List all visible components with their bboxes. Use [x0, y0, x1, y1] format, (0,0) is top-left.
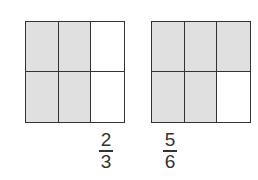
grid-cell — [26, 22, 59, 72]
fraction-label-left: 2 3 — [98, 131, 114, 171]
fraction-grid-left — [25, 21, 125, 123]
grid-cell — [185, 22, 218, 72]
fraction-numerator: 2 — [101, 131, 112, 149]
grid-cell — [152, 72, 185, 122]
grid-cell — [26, 72, 59, 122]
grid-cell — [59, 72, 92, 122]
grid-cell — [91, 72, 124, 122]
grid-cell — [91, 22, 124, 72]
grid-cell — [185, 72, 218, 122]
fraction-denominator: 6 — [165, 153, 176, 171]
fraction-label-right: 5 6 — [162, 131, 178, 171]
grid-cell — [217, 72, 250, 122]
grid-cell — [152, 22, 185, 72]
grid-cell — [217, 22, 250, 72]
grid-cell — [59, 22, 92, 72]
fraction-denominator: 3 — [101, 153, 112, 171]
fraction-grid-right — [151, 21, 251, 123]
fraction-numerator: 5 — [165, 131, 176, 149]
